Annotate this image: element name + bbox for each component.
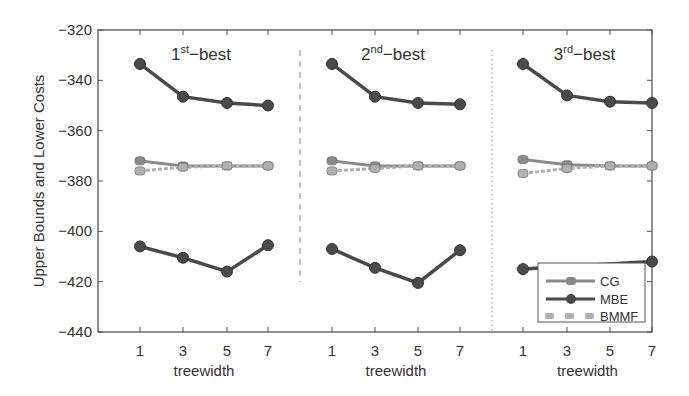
legend-bmmf-marker <box>545 313 554 319</box>
mbe-marker <box>455 245 466 256</box>
mbe-marker <box>413 277 424 288</box>
y-tick-label: −380 <box>58 172 92 189</box>
y-tick-label: −420 <box>58 273 92 290</box>
y-tick-label: −340 <box>58 71 92 88</box>
mbe-marker <box>518 264 529 275</box>
mbe-marker <box>222 97 233 108</box>
y-tick-label: −360 <box>58 122 92 139</box>
mbe-marker <box>327 243 338 254</box>
bmmf-marker <box>413 162 423 170</box>
mbe-marker <box>455 99 466 110</box>
series-mbe-lower-line <box>140 245 268 271</box>
bmmf-marker <box>222 162 232 170</box>
mbe-marker <box>263 100 274 111</box>
x-axis-label: treewidth <box>174 362 235 379</box>
mbe-marker <box>135 58 146 69</box>
x-tick-label: 1 <box>136 342 144 359</box>
bmmf-marker <box>135 167 145 175</box>
series-mbe-upper-line <box>140 64 268 106</box>
mbe-marker <box>518 58 529 69</box>
x-axis-label: treewidth <box>557 362 618 379</box>
series-mbe-upper-line <box>332 64 460 104</box>
mbe-marker <box>327 58 338 69</box>
bmmf-marker <box>562 164 572 172</box>
legend-label-mbe: MBE <box>600 292 629 307</box>
x-tick-label: 1 <box>328 342 336 359</box>
mbe-marker <box>562 90 573 101</box>
y-tick-label: −320 <box>58 21 92 38</box>
bmmf-marker <box>605 162 615 170</box>
x-tick-label: 3 <box>179 342 187 359</box>
bmmf-marker <box>455 162 465 170</box>
x-tick-label: 7 <box>264 342 272 359</box>
x-tick-label: 7 <box>648 342 656 359</box>
mbe-marker <box>263 240 274 251</box>
x-tick-label: 3 <box>371 342 379 359</box>
cg-marker <box>327 157 337 165</box>
panel-1: 1357treewidth1st−best <box>135 30 274 379</box>
y-tick-label: −440 <box>58 323 92 340</box>
series-mbe-lower-line <box>332 249 460 283</box>
bmmf-marker <box>647 162 657 170</box>
panel-title: 1st−best <box>171 43 231 64</box>
x-tick-label: 5 <box>223 342 231 359</box>
y-tick-label: −400 <box>58 222 92 239</box>
x-tick-label: 3 <box>563 342 571 359</box>
legend-bmmf-marker <box>565 313 574 319</box>
bmmf-marker <box>518 169 528 177</box>
legend-cg-marker <box>566 277 576 285</box>
mbe-marker <box>178 91 189 102</box>
panel-3: 1357treewidth3rd−best <box>518 30 658 379</box>
cg-marker <box>518 156 528 164</box>
mbe-marker <box>647 256 658 267</box>
mbe-marker <box>605 96 616 107</box>
legend: CGMBEBMMF <box>538 263 645 324</box>
bmmf-marker <box>327 167 337 175</box>
bmmf-marker <box>178 163 188 171</box>
x-axis-label: treewidth <box>366 362 427 379</box>
legend-label-bmmf: BMMF <box>600 309 638 324</box>
panel-title: 3rd−best <box>554 43 616 64</box>
series-bmmf-line <box>523 166 652 174</box>
mbe-marker <box>370 262 381 273</box>
chart: −320−340−360−380−400−420−440Upper Bounds… <box>0 0 689 396</box>
bmmf-marker <box>370 164 380 172</box>
mbe-marker <box>413 97 424 108</box>
x-tick-label: 7 <box>456 342 464 359</box>
panel-title: 2nd−best <box>361 43 425 64</box>
x-tick-label: 1 <box>519 342 527 359</box>
legend-label-cg: CG <box>600 274 620 289</box>
bmmf-marker <box>263 162 273 170</box>
panel-2: 1357treewidth2nd−best <box>327 30 466 379</box>
mbe-marker <box>647 97 658 108</box>
mbe-marker <box>222 266 233 277</box>
mbe-marker <box>135 241 146 252</box>
cg-marker <box>135 157 145 165</box>
y-axis-label: Upper Bounds and Lower Costs <box>30 75 47 288</box>
mbe-marker <box>178 252 189 263</box>
legend-bmmf-marker <box>585 313 594 319</box>
legend-mbe-marker <box>566 294 576 304</box>
mbe-marker <box>370 91 381 102</box>
x-tick-label: 5 <box>414 342 422 359</box>
x-tick-label: 5 <box>606 342 614 359</box>
series-mbe-upper-line <box>523 64 652 103</box>
